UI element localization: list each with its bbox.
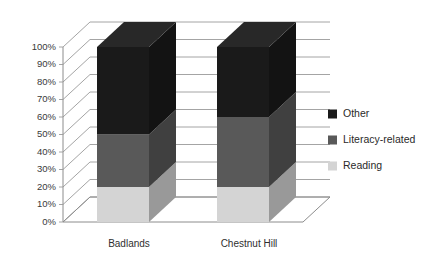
bar-segment-other — [97, 47, 149, 135]
y-axis-tick-label: 100% — [32, 41, 57, 52]
y-axis-tick-label: 40% — [37, 146, 57, 157]
x-axis-tick-label: Badlands — [108, 238, 150, 249]
legend-swatch — [328, 162, 337, 171]
bar-segment-reading — [97, 187, 149, 222]
y-axis-tick-label: 10% — [37, 198, 57, 209]
bar-segment-reading — [217, 187, 269, 222]
y-axis-tick-label: 0% — [42, 216, 56, 227]
legend-label: Other — [343, 107, 370, 119]
y-axis-tick-label: 20% — [37, 181, 57, 192]
legend-swatch — [328, 110, 337, 119]
y-axis-tick-label: 50% — [37, 128, 57, 139]
bar-segment-other — [217, 47, 269, 117]
y-axis-tick-label: 80% — [37, 76, 57, 87]
y-axis-tick-label: 70% — [37, 93, 57, 104]
bar-segment-literacy-related — [217, 117, 269, 187]
bar-column — [217, 22, 296, 222]
stacked-column-chart: 0%10%20%30%40%50%60%70%80%90%100% Badlan… — [0, 0, 437, 264]
bars-group — [97, 22, 296, 222]
y-axis-tick-label: 60% — [37, 111, 57, 122]
axis-lines — [59, 47, 63, 222]
chart-legend: OtherLiteracy-relatedReading — [328, 107, 416, 171]
y-axis-tick-labels: 0%10%20%30%40%50%60%70%80%90%100% — [32, 41, 57, 227]
y-axis-tick-label: 30% — [37, 163, 57, 174]
x-axis-tick-labels: BadlandsChestnut Hill — [108, 238, 277, 249]
bar-column — [97, 22, 176, 222]
y-axis-tick-label: 90% — [37, 58, 57, 69]
legend-label: Reading — [343, 159, 382, 171]
chart-container: 0%10%20%30%40%50%60%70%80%90%100% Badlan… — [0, 0, 437, 264]
legend-swatch — [328, 136, 337, 145]
bar-segment-literacy-related — [97, 135, 149, 188]
legend-label: Literacy-related — [343, 133, 416, 145]
x-axis-tick-label: Chestnut Hill — [221, 238, 278, 249]
